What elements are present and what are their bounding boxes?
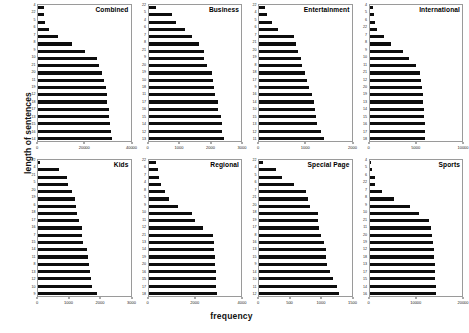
bar <box>259 183 294 186</box>
bar-row <box>259 130 352 133</box>
bar <box>370 183 375 186</box>
bar-row <box>38 137 131 140</box>
y-axis-tick-label: 14 <box>253 271 257 275</box>
bar-row <box>259 176 352 179</box>
bar-row <box>38 234 131 237</box>
y-axis-tick-label: 8 <box>144 41 146 45</box>
bar <box>259 234 321 237</box>
y-axis-tick-label: 13 <box>363 101 367 105</box>
y-axis-tick-label: 5 <box>255 174 257 178</box>
y-axis-tick-label: 16 <box>253 93 257 97</box>
y-axis-tick-labels: 22674859101112211314192016151718 <box>133 159 148 297</box>
bar <box>370 168 372 171</box>
bar <box>149 205 178 208</box>
y-axis-tick-label: 4 <box>255 11 257 15</box>
bar-row <box>38 219 131 222</box>
plot-area: Sports <box>369 159 464 297</box>
bar <box>370 28 377 31</box>
bar-row <box>38 190 131 193</box>
bar-row <box>149 115 242 118</box>
y-axis-tick-label: 16 <box>142 108 146 112</box>
bar-row <box>38 183 131 186</box>
bar <box>38 13 44 16</box>
bar-row <box>370 93 463 96</box>
y-axis-tick-label: 9 <box>255 86 257 90</box>
bar <box>259 226 319 229</box>
y-axis-tick-label: 17 <box>32 108 36 112</box>
bar <box>149 241 214 244</box>
x-axis-title: frequency <box>0 311 463 321</box>
bar <box>38 234 82 237</box>
bar-row <box>370 28 463 31</box>
y-axis-tick-label: 19 <box>253 219 257 223</box>
y-axis-tick-label: 22 <box>142 159 146 163</box>
bar-row <box>38 13 131 16</box>
panel-title: International <box>419 6 460 13</box>
panel-title: Special Page <box>308 161 350 168</box>
bar-row <box>370 13 463 16</box>
bar <box>38 190 72 193</box>
bar-row <box>38 241 131 244</box>
x-axis-tick-mark <box>463 142 464 144</box>
bar-row <box>370 263 463 266</box>
bar-row <box>259 183 352 186</box>
x-axis-tick-label: 0 <box>257 300 259 305</box>
y-axis-tick-label: 7 <box>255 34 257 38</box>
bar-row <box>149 93 242 96</box>
y-axis-tick-label: 16 <box>32 131 36 135</box>
bar-row <box>149 122 242 125</box>
x-axis-tick-label: 0 <box>257 145 259 150</box>
y-axis-tick-label: 8 <box>365 41 367 45</box>
chart-panel: 22546782192019101811171615141213Business… <box>133 4 243 155</box>
y-axis-tick-label: 14 <box>363 108 367 112</box>
bar-row <box>38 115 131 118</box>
bar <box>370 13 374 16</box>
bar-row <box>370 122 463 125</box>
bar <box>149 100 218 103</box>
bar <box>149 292 217 295</box>
bar <box>259 241 324 244</box>
bar-row <box>149 176 242 179</box>
y-axis-tick-label: 5 <box>255 19 257 23</box>
bar-row <box>370 176 463 179</box>
bar <box>38 176 67 179</box>
bar-row <box>38 35 131 38</box>
y-axis-tick-label: 18 <box>253 71 257 75</box>
bar <box>149 161 157 164</box>
y-axis-tick-label: 4 <box>365 4 367 8</box>
bar <box>38 270 90 273</box>
x-axis-tick-label: 10000 <box>410 300 421 305</box>
y-axis-tick-label: 20 <box>363 234 367 238</box>
y-axis-tick-label: 22 <box>253 159 257 163</box>
bar-row <box>149 226 242 229</box>
bar-row <box>259 13 352 16</box>
y-axis-tick-label: 18 <box>253 211 257 215</box>
y-axis-tick-label: 16 <box>363 123 367 127</box>
bar-row <box>149 21 242 24</box>
x-axis-tick-mark <box>37 297 38 299</box>
bar <box>149 190 166 193</box>
x-axis: 02000040000 <box>37 142 132 155</box>
y-axis-tick-label: 6 <box>34 204 36 208</box>
x-axis-tick-label: 0 <box>36 300 38 305</box>
y-axis-tick-label: 6 <box>365 174 367 178</box>
y-axis-tick-label: 10 <box>253 278 257 282</box>
y-axis-tick-label: 12 <box>363 79 367 83</box>
bar-series <box>259 160 352 296</box>
y-axis-tick-label: 19 <box>32 86 36 90</box>
bar-row <box>259 86 352 89</box>
y-axis-tick-label: 20 <box>253 49 257 53</box>
bar <box>259 285 337 288</box>
bar-row <box>38 270 131 273</box>
bar-row <box>259 93 352 96</box>
bar-row <box>149 197 242 200</box>
bar <box>259 35 294 38</box>
bar-row <box>259 190 352 193</box>
bar-row <box>38 71 131 74</box>
bar <box>370 285 436 288</box>
bar <box>370 137 426 140</box>
bar-row <box>149 255 242 258</box>
y-axis-tick-label: 8 <box>34 41 36 45</box>
y-axis-tick-label: 8 <box>34 263 36 267</box>
x-axis: 010002000 <box>258 142 353 155</box>
